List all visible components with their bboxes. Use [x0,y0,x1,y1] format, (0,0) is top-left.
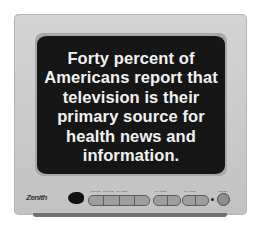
button-group-channel-1 [153,195,181,206]
remote-sensor [68,192,84,204]
zenith-logo: Zenith [26,193,47,202]
tv-screen: Forty percent of Americans report that t… [37,36,225,174]
button-group-channel-2 [182,195,209,206]
control-button[interactable] [120,196,135,205]
indicator-light [211,198,214,201]
television-base [33,213,227,217]
control-button[interactable] [154,196,168,205]
control-label: CHANNEL [184,190,196,193]
screen-message: Forty percent of Americans report that t… [44,49,218,166]
control-button[interactable] [104,196,119,205]
power-knob[interactable] [217,193,230,206]
screen-line: Americans report that [44,68,218,88]
button-group-main [88,195,150,206]
control-button[interactable] [183,196,196,205]
screen-line: television is their [44,88,218,108]
control-button[interactable] [168,196,181,205]
control-label: VOLUME · PICTURE · CHANNEL [90,190,128,193]
screen-line: information. [44,146,218,166]
control-button[interactable] [89,196,104,205]
control-button[interactable] [196,196,208,205]
control-label: CHANNEL [155,190,167,193]
screen-line: health news and [44,127,218,147]
control-button[interactable] [135,196,149,205]
screen-line: Forty percent of [44,49,218,69]
screen-line: primary source for [44,107,218,127]
